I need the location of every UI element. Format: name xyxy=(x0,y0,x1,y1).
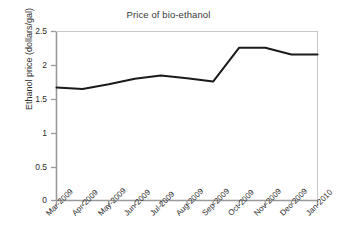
y-tick-label: 1.5 xyxy=(21,95,47,104)
data-series-line xyxy=(57,48,318,89)
y-tick-label: 2.5 xyxy=(21,27,47,36)
y-tick-label: 0 xyxy=(21,196,47,205)
y-tick-label: 2 xyxy=(21,61,47,70)
y-tick-label: 0.5 xyxy=(21,163,47,172)
chart-figure: Price of bio-ethanol Ethanol price (doll… xyxy=(0,0,337,252)
axis-frame xyxy=(56,31,318,201)
y-tick-label: 1 xyxy=(21,129,47,138)
y-tick-marks xyxy=(51,32,56,201)
